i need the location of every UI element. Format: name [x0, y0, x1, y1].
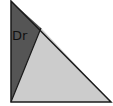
dark-region-label: Dr: [12, 28, 28, 43]
triangle-diagram: Dr: [0, 0, 113, 106]
